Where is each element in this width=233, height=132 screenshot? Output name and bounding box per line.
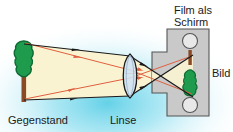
film-sprocket-top-icon [183, 34, 198, 49]
optics-diagram-figure: Gegenstand Linse Film als Schirm Bild [0, 0, 233, 132]
lens-body [123, 54, 137, 98]
converging-lens [123, 54, 137, 98]
diagram-canvas: Gegenstand Linse Film als Schirm Bild [0, 0, 233, 132]
label-screen-line1: Film als [174, 4, 212, 16]
label-screen-line2: Schirm [174, 16, 208, 28]
label-object: Gegenstand [8, 114, 68, 126]
object-tree-crown [14, 41, 33, 77]
label-lens: Linse [110, 114, 136, 126]
label-image: Bild [212, 67, 230, 79]
film-sprocket-bottom-icon [183, 98, 198, 113]
